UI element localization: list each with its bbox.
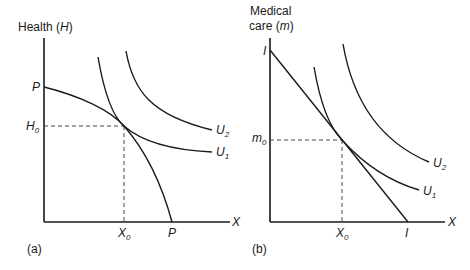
y-intercept-label: I bbox=[263, 44, 267, 58]
diagram: Health (H) P H0 U1 U2 X X0 P (a) Medical… bbox=[0, 0, 470, 270]
y-axis-label-line1: Medical bbox=[250, 4, 291, 18]
x-axis-label: X bbox=[447, 215, 457, 229]
y-intercept-label: P bbox=[32, 80, 40, 94]
x-intercept-label: I bbox=[405, 226, 409, 240]
panel-label: (b) bbox=[252, 242, 267, 256]
u2-label: U2 bbox=[433, 156, 447, 172]
eq-y-label: H0 bbox=[26, 119, 40, 135]
production-possibility-frontier bbox=[44, 87, 172, 222]
y-axis-label: Health (H) bbox=[18, 20, 73, 34]
x-axis-label: X bbox=[231, 215, 241, 229]
panel-label: (a) bbox=[27, 242, 42, 256]
panel-a: Health (H) P H0 U1 U2 X X0 P (a) bbox=[18, 20, 241, 256]
x-intercept-label: P bbox=[168, 226, 176, 240]
eq-x-label: X0 bbox=[335, 226, 349, 242]
indifference-curve-u2 bbox=[343, 44, 429, 162]
indifference-curve-u2 bbox=[126, 51, 212, 130]
eq-y-label: m0 bbox=[252, 131, 267, 147]
u2-label: U2 bbox=[216, 123, 230, 139]
u1-label: U1 bbox=[423, 184, 436, 200]
eq-x-label: X0 bbox=[117, 226, 131, 242]
indifference-curve-u1 bbox=[314, 67, 419, 190]
panel-b: Medical care (m) I m0 U1 U2 X X0 I (b) bbox=[249, 4, 457, 256]
y-axis-label-line2: care (m) bbox=[249, 19, 294, 33]
u1-label: U1 bbox=[216, 145, 229, 161]
